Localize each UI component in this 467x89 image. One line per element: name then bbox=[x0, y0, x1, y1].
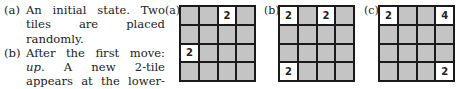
caption-text: After the first move: up. A new 2-tile a… bbox=[26, 46, 165, 89]
board-a: 22 bbox=[179, 5, 256, 82]
empty-cell bbox=[237, 45, 254, 62]
empty-cell bbox=[436, 45, 453, 62]
panel-label-a: (a) bbox=[165, 4, 180, 17]
empty-cell bbox=[418, 7, 435, 24]
caption-emphasis: up bbox=[26, 60, 41, 74]
empty-cell bbox=[299, 7, 316, 24]
empty-cell bbox=[237, 26, 254, 43]
empty-cell bbox=[418, 26, 435, 43]
empty-cell bbox=[399, 7, 416, 24]
tile: 2 bbox=[280, 63, 297, 80]
empty-cell bbox=[280, 45, 297, 62]
empty-cell bbox=[200, 45, 217, 62]
empty-cell bbox=[237, 63, 254, 80]
empty-cell bbox=[299, 45, 316, 62]
empty-cell bbox=[380, 26, 397, 43]
empty-cell bbox=[280, 26, 297, 43]
empty-cell bbox=[219, 45, 236, 62]
empty-cell bbox=[318, 45, 335, 62]
empty-cell bbox=[237, 7, 254, 24]
empty-cell bbox=[181, 26, 198, 43]
empty-cell bbox=[299, 26, 316, 43]
empty-cell bbox=[336, 7, 353, 24]
empty-cell bbox=[336, 63, 353, 80]
caption-label: (b) bbox=[3, 46, 26, 89]
board-c: 242 bbox=[378, 5, 455, 82]
caption-item-b: (b) After the first move: up. A new 2-ti… bbox=[3, 46, 165, 89]
figure-caption: (a) An initial state. Two tiles are plac… bbox=[3, 3, 165, 89]
caption-label: (a) bbox=[3, 3, 26, 46]
caption-text-part: After the first move: bbox=[26, 46, 165, 60]
tile: 2 bbox=[280, 7, 297, 24]
empty-cell bbox=[336, 26, 353, 43]
empty-cell bbox=[200, 63, 217, 80]
empty-cell bbox=[200, 26, 217, 43]
empty-cell bbox=[181, 7, 198, 24]
tile: 2 bbox=[181, 45, 198, 62]
empty-cell bbox=[318, 26, 335, 43]
empty-cell bbox=[318, 63, 335, 80]
empty-cell bbox=[299, 63, 316, 80]
tile: 2 bbox=[380, 7, 397, 24]
panel-label-c: (c) bbox=[364, 4, 379, 17]
tile: 2 bbox=[318, 7, 335, 24]
caption-item-a: (a) An initial state. Two tiles are plac… bbox=[3, 3, 165, 46]
empty-cell bbox=[418, 45, 435, 62]
empty-cell bbox=[418, 63, 435, 80]
empty-cell bbox=[380, 45, 397, 62]
caption-text: An initial state. Two tiles are placed r… bbox=[26, 3, 165, 46]
empty-cell bbox=[399, 26, 416, 43]
empty-cell bbox=[436, 26, 453, 43]
empty-cell bbox=[181, 63, 198, 80]
empty-cell bbox=[200, 7, 217, 24]
board-b: 222 bbox=[278, 5, 355, 82]
tile: 4 bbox=[436, 7, 453, 24]
tile: 2 bbox=[219, 7, 236, 24]
empty-cell bbox=[336, 45, 353, 62]
empty-cell bbox=[219, 26, 236, 43]
empty-cell bbox=[399, 45, 416, 62]
caption-text-part: . A new 2-tile appears at the lower-left… bbox=[26, 60, 165, 89]
empty-cell bbox=[399, 63, 416, 80]
empty-cell bbox=[380, 63, 397, 80]
tile: 2 bbox=[436, 63, 453, 80]
empty-cell bbox=[219, 63, 236, 80]
